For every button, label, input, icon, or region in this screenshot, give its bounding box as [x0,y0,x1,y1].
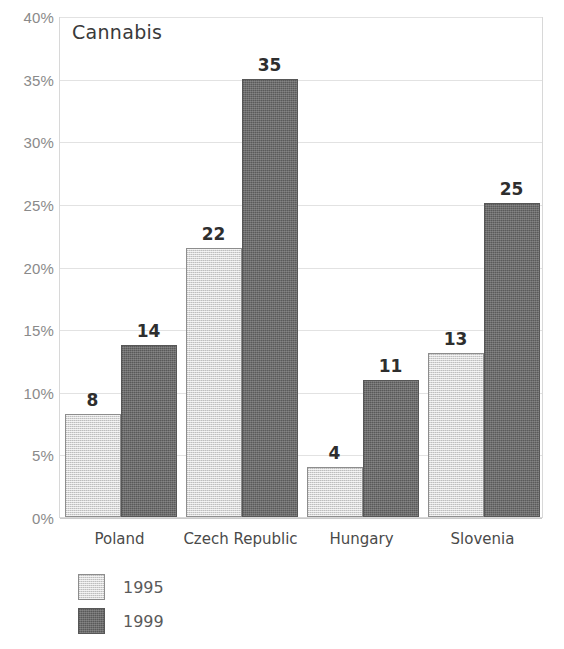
y-axis: 40%35%30%25%20%15%10%5%0% [0,0,54,649]
bar-hungary-1995: 4 [307,467,363,517]
chart-title: Cannabis [72,21,162,43]
gridline-30pct [60,142,542,143]
gridline-0pct [60,518,542,519]
gridline-25pct [60,205,542,206]
legend-swatch-1995 [78,574,105,600]
x-axis-category-label: Poland [94,530,144,548]
bar-slovenia-1995: 13 [428,353,484,517]
y-axis-tick-label: 25% [6,196,54,213]
legend-label-1999: 1999 [123,612,164,631]
gridline-35pct [60,80,542,81]
bar-value-label: 13 [444,329,468,349]
bar-czech-republic-1999: 35 [242,79,298,517]
bar-poland-1995: 8 [65,414,121,517]
legend-label-1995: 1995 [123,578,164,597]
plot-area: Cannabis 81422354111325 [59,17,543,518]
x-axis-category-label: Slovenia [451,530,515,548]
y-axis-tick-label: 35% [6,71,54,88]
bar-slovenia-1999: 25 [484,203,540,517]
chart-legend: 19951999 [78,570,164,638]
bar-value-label: 14 [137,321,161,341]
bar-value-label: 4 [329,443,341,463]
bar-hungary-1999: 11 [363,380,419,517]
x-axis-category-label: Hungary [329,530,393,548]
gridline-20pct [60,268,542,269]
legend-item-1999: 1999 [78,604,164,638]
y-axis-tick-label: 10% [6,384,54,401]
y-axis-tick-label: 15% [6,322,54,339]
legend-swatch-1999 [78,608,105,634]
y-axis-tick-label: 30% [6,134,54,151]
bar-value-label: 11 [379,356,403,376]
y-axis-tick-label: 40% [6,9,54,26]
gridline-15pct [60,330,542,331]
gridline-40pct [60,17,542,18]
y-axis-tick-label: 0% [6,510,54,527]
x-axis-category-label: Czech Republic [183,530,297,548]
bar-value-label: 35 [258,55,282,75]
bar-value-label: 8 [87,390,99,410]
bar-value-label: 22 [202,224,226,244]
bar-value-label: 25 [500,179,524,199]
bar-poland-1999: 14 [121,345,177,517]
y-axis-tick-label: 5% [6,447,54,464]
bar-czech-republic-1995: 22 [186,248,242,517]
cannabis-bar-chart: 40%35%30%25%20%15%10%5%0% Cannabis 81422… [0,0,564,649]
y-axis-tick-label: 20% [6,259,54,276]
legend-item-1995: 1995 [78,570,164,604]
